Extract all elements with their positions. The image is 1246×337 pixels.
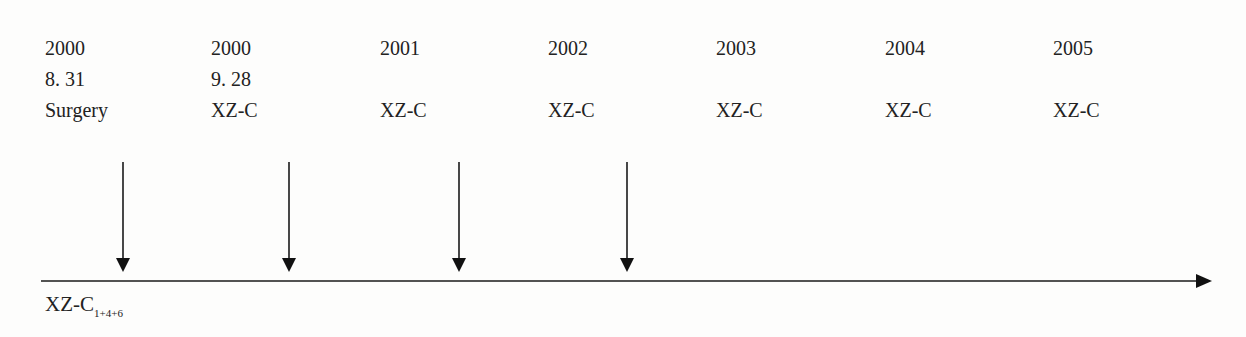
down-arrow-icon — [452, 162, 466, 272]
down-arrow-icon — [282, 162, 296, 272]
axis-label-main: XZ-C — [45, 292, 94, 316]
axis-label: XZ-C1+4+6 — [45, 292, 123, 319]
down-arrow-icon — [620, 162, 634, 272]
timeline-graphic — [0, 0, 1246, 337]
timeline-axis-arrow-icon — [41, 274, 1212, 288]
axis-label-subscript: 1+4+6 — [94, 307, 123, 319]
down-arrow-icon — [116, 162, 130, 272]
